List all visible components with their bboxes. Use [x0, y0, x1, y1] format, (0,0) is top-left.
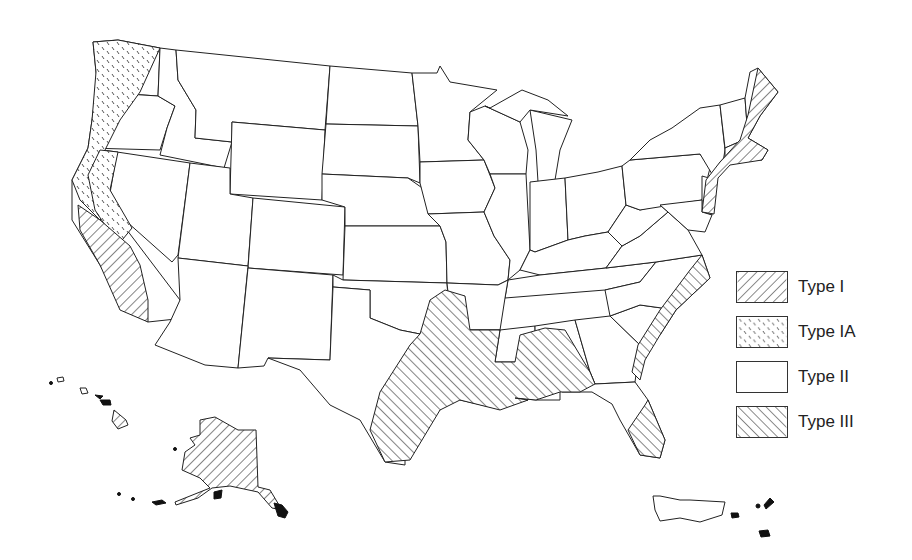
state-south-dakota: [322, 124, 420, 183]
state-north-dakota: [326, 66, 418, 126]
legend-label: Type IA: [798, 322, 856, 342]
legend-item-type-ii: Type II: [736, 354, 856, 399]
puerto-rico: [653, 496, 774, 537]
blank-swatch-icon: [736, 361, 788, 393]
hatch-forward-swatch-icon: [736, 271, 788, 303]
state-colorado: [248, 198, 345, 275]
legend: Type I Type IA Type II Type III: [736, 264, 856, 444]
legend-item-type-ia: Type IA: [736, 309, 856, 354]
state-iowa: [420, 160, 495, 214]
dashes-swatch-icon: [736, 316, 788, 348]
state-indiana: [530, 178, 568, 252]
state-michigan: [530, 110, 572, 182]
legend-item-type-i: Type I: [736, 264, 856, 309]
state-wyoming: [230, 122, 325, 200]
state-new-mexico: [238, 268, 333, 368]
legend-item-type-iii: Type III: [736, 399, 856, 444]
state-kansas: [343, 226, 447, 283]
legend-label: Type III: [798, 412, 854, 432]
hawaii: [50, 377, 129, 429]
legend-label: Type I: [798, 277, 844, 297]
legend-label: Type II: [798, 367, 849, 387]
alaska: [118, 417, 289, 518]
hatch-back-swatch-icon: [736, 406, 788, 438]
